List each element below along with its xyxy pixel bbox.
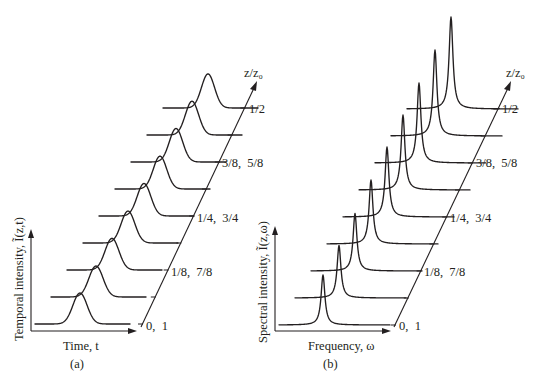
z-axis-a <box>141 88 254 327</box>
trace-z-1 <box>51 266 146 297</box>
trace-z-8 <box>407 17 518 109</box>
z-tick-label-a-1: 1/8, 7/8 <box>171 265 212 279</box>
spectral-intensity-axis-label: Spectral intensity, Ĩ(z,ω) <box>256 221 270 343</box>
trace-z-4 <box>343 147 454 217</box>
spectral-intensity-axis-arrow-icon <box>272 226 278 235</box>
z-tick-label-a-2: 1/4, 3/4 <box>197 211 239 225</box>
figure: z/z₀ 0, 1 1/8, 7/8 1/4, 3/4 3/8, 5/8 1/2… <box>0 0 542 384</box>
z-tick-label-b-0: 0, 1 <box>399 319 421 333</box>
z-tick-label-b-1: 1/8, 7/8 <box>424 265 465 279</box>
trace-z-2 <box>311 214 422 271</box>
z-tick-label-a-0: 0, 1 <box>146 319 168 333</box>
trace-z-1 <box>295 246 406 298</box>
z-axis-b-arrow-icon <box>504 81 511 91</box>
panel-b: z/z₀ 0, 1 1/8, 7/8 1/4, 3/4 3/8, 5/8 1/2… <box>256 17 525 371</box>
frequency-axis-arrow-icon <box>382 328 391 334</box>
panel-a-caption: (a) <box>70 357 84 371</box>
panel-b-caption: (b) <box>323 357 338 371</box>
z-tick-label-b-4: 1/2 <box>502 102 518 116</box>
z-axis-b <box>394 88 508 327</box>
trace-z-0 <box>35 293 130 324</box>
temporal-intensity-axis-arrow-icon <box>28 229 34 238</box>
temporal-traces <box>35 74 258 324</box>
frequency-axis-label: Frequency, ω <box>308 339 374 353</box>
z-tick-label-a-4: 1/2 <box>249 102 265 116</box>
z-axis-b-label: z/z₀ <box>506 66 525 80</box>
trace-z-6 <box>131 129 226 162</box>
z-tick-label-b-3: 3/8, 5/8 <box>476 156 517 170</box>
time-axis-arrow-icon <box>128 328 137 334</box>
trace-z-7 <box>147 101 242 135</box>
time-axis-label: Time, t <box>63 339 99 353</box>
trace-z-6 <box>375 83 486 163</box>
panel-a: z/z₀ 0, 1 1/8, 7/8 1/4, 3/4 3/8, 5/8 1/2… <box>12 66 265 371</box>
z-axis-a-arrow-icon <box>250 81 257 91</box>
trace-z-0 <box>279 275 390 325</box>
trace-z-5 <box>359 115 470 190</box>
z-tick-label-b-2: 1/4, 3/4 <box>450 211 492 225</box>
temporal-intensity-axis-label: Temporal intensity, Ĩ(z,t) <box>12 217 26 341</box>
spectral-traces <box>279 17 518 325</box>
z-tick-label-a-3: 3/8, 5/8 <box>222 156 263 170</box>
z-axis-a-label: z/z₀ <box>244 66 263 80</box>
